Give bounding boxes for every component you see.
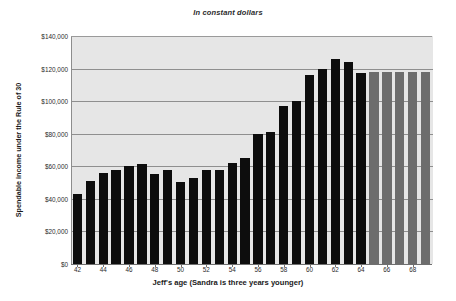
x-tick-mark — [387, 264, 388, 267]
bar — [395, 72, 404, 264]
bar — [408, 72, 417, 264]
x-tick-label: 56 — [248, 266, 268, 273]
bar — [73, 194, 82, 264]
x-tick-mark — [103, 264, 104, 267]
x-tick-label: 54 — [222, 266, 242, 273]
bar — [356, 73, 365, 264]
bar — [202, 170, 211, 264]
x-tick-label: 44 — [93, 266, 113, 273]
bar — [318, 69, 327, 264]
bar-chart: In constant dollars Spendable income und… — [0, 0, 456, 301]
bar — [111, 170, 120, 264]
bar — [253, 134, 262, 264]
x-tick-label: 64 — [351, 266, 371, 273]
x-tick-label: 58 — [274, 266, 294, 273]
x-tick-label: 52 — [196, 266, 216, 273]
x-tick-label: 48 — [145, 266, 165, 273]
x-tick-mark — [181, 264, 182, 267]
bars-layer — [71, 36, 432, 264]
bar — [163, 170, 172, 264]
x-tick-mark — [284, 264, 285, 267]
x-axis-title: Jeff's age (Sandra is three years younge… — [0, 278, 456, 287]
x-tick-mark — [335, 264, 336, 267]
bar — [150, 174, 159, 264]
x-tick-label: 46 — [119, 266, 139, 273]
x-tick-label: 66 — [377, 266, 397, 273]
x-tick-mark — [361, 264, 362, 267]
bar — [189, 178, 198, 264]
y-tick-label: $100,000 — [2, 98, 68, 105]
x-tick-mark — [77, 264, 78, 267]
y-tick-label: $140,000 — [2, 33, 68, 40]
x-tick-label: 60 — [300, 266, 320, 273]
bar — [86, 181, 95, 264]
bar — [331, 59, 340, 264]
x-tick-mark — [310, 264, 311, 267]
x-tick-mark — [258, 264, 259, 267]
bar — [240, 158, 249, 264]
y-tick-label: $60,000 — [2, 163, 68, 170]
x-tick-label: 42 — [67, 266, 87, 273]
chart-title: In constant dollars — [0, 8, 456, 17]
bar — [266, 132, 275, 264]
bar — [99, 173, 108, 264]
bar — [215, 170, 224, 264]
x-tick-mark — [232, 264, 233, 267]
bar — [279, 106, 288, 264]
x-tick-mark — [155, 264, 156, 267]
x-tick-label: 62 — [325, 266, 345, 273]
x-tick-mark — [206, 264, 207, 267]
bar — [421, 72, 430, 264]
x-tick-mark — [129, 264, 130, 267]
x-tick-label: 68 — [403, 266, 423, 273]
bar — [344, 62, 353, 264]
bar — [292, 101, 301, 264]
x-tick-mark — [413, 264, 414, 267]
bar — [228, 163, 237, 264]
y-tick-label: $0 — [2, 261, 68, 268]
bar — [305, 75, 314, 264]
bar — [124, 166, 133, 264]
bar — [382, 72, 391, 264]
bar — [176, 182, 185, 264]
y-axis-ticks: $0$20,000$40,000$60,000$80,000$100,000$1… — [0, 0, 68, 301]
bar — [137, 164, 146, 264]
y-tick-label: $120,000 — [2, 65, 68, 72]
x-tick-label: 50 — [171, 266, 191, 273]
x-axis-line — [71, 264, 432, 265]
bar — [369, 72, 378, 264]
y-tick-label: $80,000 — [2, 130, 68, 137]
y-tick-label: $20,000 — [2, 228, 68, 235]
y-tick-label: $40,000 — [2, 195, 68, 202]
